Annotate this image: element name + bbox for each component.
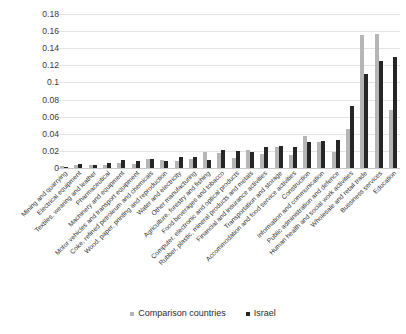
legend-label: Comparison countries <box>138 309 226 318</box>
bar-israel <box>307 142 311 168</box>
y-axis-tick-label: 0.02 <box>15 147 59 156</box>
bar-group <box>357 14 371 168</box>
y-axis-tick-label: 0.1 <box>15 78 59 87</box>
bar-group <box>114 14 128 168</box>
bar-group <box>329 14 343 168</box>
bar-israel <box>279 146 283 168</box>
y-axis-tick-label: 0.12 <box>15 61 59 70</box>
bar-group <box>214 14 228 168</box>
bar-group <box>71 14 85 168</box>
bar-group <box>243 14 257 168</box>
bar-israel <box>179 157 183 168</box>
bar-israel <box>336 140 340 168</box>
bar-group <box>271 14 285 168</box>
y-axis-tick-label: 0.06 <box>15 113 59 122</box>
bar-israel <box>78 164 82 168</box>
bar-group <box>286 14 300 168</box>
bar-group <box>229 14 243 168</box>
bar-group <box>86 14 100 168</box>
y-axis-tick-label: 0 <box>15 164 59 173</box>
bar-israel <box>364 74 368 168</box>
legend-swatch-icon <box>130 312 134 316</box>
bar-israel <box>264 147 268 168</box>
bar-group <box>372 14 386 168</box>
bar-israel <box>136 161 140 168</box>
bar-israel <box>236 151 240 168</box>
bar-israel <box>379 61 383 168</box>
legend-swatch-icon <box>246 312 250 316</box>
bar-group <box>300 14 314 168</box>
y-axis-tick-label: 0.08 <box>15 96 59 105</box>
bar-israel <box>393 57 397 168</box>
legend-item-israel: Israel <box>246 309 276 318</box>
bar-group <box>128 14 142 168</box>
bar-israel <box>93 165 97 168</box>
bar-group <box>171 14 185 168</box>
bar-israel <box>107 163 111 168</box>
bar-group <box>186 14 200 168</box>
bar-israel <box>321 141 325 168</box>
bar-group <box>57 14 71 168</box>
bar-chart: Mining and quarryingElectrical equipment… <box>0 0 406 334</box>
bar-israel <box>121 160 125 168</box>
y-axis-tick-label: 0.18 <box>15 10 59 19</box>
bar-israel <box>293 147 297 168</box>
bar-israel <box>221 150 225 168</box>
bar-group <box>143 14 157 168</box>
bar-israel <box>64 167 68 168</box>
bar-israel <box>250 152 254 168</box>
bar-israel <box>193 157 197 168</box>
bar-groups <box>57 14 400 168</box>
bar-group <box>200 14 214 168</box>
bar-israel <box>350 106 354 168</box>
bar-israel <box>207 160 211 168</box>
bar-group <box>257 14 271 168</box>
bar-group <box>100 14 114 168</box>
plot-area <box>57 14 400 168</box>
bar-israel <box>164 161 168 168</box>
bar-israel <box>150 159 154 168</box>
bar-group <box>314 14 328 168</box>
y-axis-tick-label: 0.16 <box>15 27 59 36</box>
y-axis-tick-label: 0.14 <box>15 44 59 53</box>
legend-item-comparison-countries: Comparison countries <box>130 309 226 318</box>
chart-legend: Comparison countries Israel <box>0 309 406 318</box>
bar-group <box>157 14 171 168</box>
y-axis-tick-label: 0.04 <box>15 130 59 139</box>
bar-group <box>343 14 357 168</box>
legend-label: Israel <box>254 309 276 318</box>
bar-group <box>386 14 400 168</box>
